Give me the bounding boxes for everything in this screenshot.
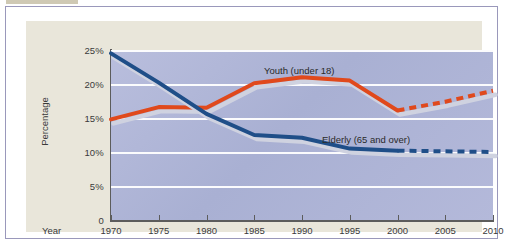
x-tick (254, 215, 255, 221)
y-tick-label: 20% (84, 79, 104, 90)
y-tick-label: 0 (99, 215, 104, 226)
x-tick (445, 215, 446, 221)
x-tick (350, 215, 351, 221)
x-tick-label: 1990 (291, 225, 312, 236)
chart-frame: Percentage Year 25%20%15%10%5%0 19701975… (5, 6, 498, 239)
y-axis-tick-labels: 25%20%15%10%5%0 (60, 21, 104, 232)
x-tick-label: 1980 (196, 225, 217, 236)
x-tick-label: 1975 (148, 225, 169, 236)
x-tick (159, 215, 160, 221)
y-tick-label: 5% (90, 181, 104, 192)
x-tick-label: 2010 (482, 225, 503, 236)
x-tick-label: 1970 (100, 225, 121, 236)
series-label-elderly: Elderly (65 and over) (322, 134, 410, 145)
x-tick-label: 1985 (244, 225, 265, 236)
x-tick (493, 215, 494, 221)
x-tick (111, 215, 112, 221)
x-tick (398, 215, 399, 221)
x-tick (207, 215, 208, 221)
page-edge-artifact (6, 0, 78, 4)
x-tick-label: 1995 (339, 225, 360, 236)
y-tick-label: 25% (84, 45, 104, 56)
chart-panel: Percentage Year 25%20%15%10%5%0 19701975… (26, 21, 482, 232)
x-axis-title: Year (42, 225, 61, 236)
y-axis-title: Percentage (39, 97, 50, 146)
y-tick-label: 10% (84, 147, 104, 158)
x-tick-label: 2005 (435, 225, 456, 236)
y-tick-label: 15% (84, 113, 104, 124)
x-tick-label: 2000 (387, 225, 408, 236)
x-tick (302, 215, 303, 221)
series-label-youth: Youth (under 18) (264, 65, 334, 76)
series-line-projected (398, 151, 494, 152)
